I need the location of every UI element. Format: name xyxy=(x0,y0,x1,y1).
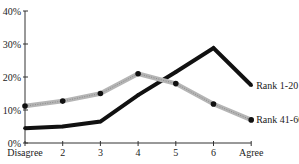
series-labels: Rank 1-20Rank 41-60 xyxy=(256,80,299,126)
data-point xyxy=(22,103,28,109)
data-point xyxy=(211,101,217,107)
data-point xyxy=(136,93,140,97)
y-tick-label: 30% xyxy=(3,39,21,50)
x-tick-label: 3 xyxy=(98,147,103,158)
data-point xyxy=(248,117,254,123)
x-tick-label: 2 xyxy=(60,147,65,158)
x-tick-label: Agree xyxy=(239,147,264,158)
line-chart: 0%10%20%30%40%Disagree23456Agree Rank 1-… xyxy=(0,0,299,164)
axes: 0%10%20%30%40%Disagree23456Agree xyxy=(3,6,264,159)
data-point xyxy=(23,126,27,130)
y-tick-label: 20% xyxy=(3,72,21,83)
data-point xyxy=(99,120,103,124)
x-tick-label: 5 xyxy=(173,147,178,158)
y-tick-label: 10% xyxy=(3,105,21,116)
x-tick-label: 4 xyxy=(136,147,141,158)
data-point xyxy=(61,125,65,129)
data-point xyxy=(212,46,216,50)
x-tick-label: 6 xyxy=(211,147,216,158)
data-point xyxy=(249,83,253,87)
series-line xyxy=(25,48,251,128)
data-point xyxy=(173,81,179,87)
x-tick-label: Disagree xyxy=(7,147,43,158)
data-point xyxy=(98,91,104,97)
data-point xyxy=(135,71,141,77)
data-point xyxy=(60,98,66,104)
series-lines xyxy=(22,46,254,130)
legend-label: Rank 41-60 xyxy=(256,114,299,125)
legend-label: Rank 1-20 xyxy=(256,80,298,91)
y-tick-label: 40% xyxy=(3,6,21,17)
data-point xyxy=(174,70,178,74)
